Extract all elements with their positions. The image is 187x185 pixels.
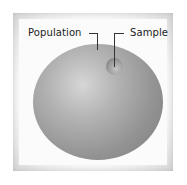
sample-leader-line-vertical — [114, 33, 115, 67]
population-label: Population — [28, 27, 82, 39]
population-leader-line-vertical — [97, 33, 98, 50]
sample-label: Sample — [130, 27, 168, 39]
population-leader-line — [89, 33, 97, 34]
sample-leader-line — [115, 33, 124, 34]
population-sphere — [33, 44, 163, 160]
